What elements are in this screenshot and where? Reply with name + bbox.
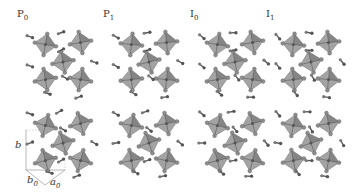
structure-i0-bottom-view [194,103,274,183]
panel-label-i0: I0 [190,9,198,22]
structure-p1-top-view [108,22,188,102]
panel-label-p1: P1 [103,9,114,22]
structure-i0-top-view [194,22,274,102]
structure-p0-bottom-view [22,103,102,183]
structure-p0-top-view [22,22,102,102]
structure-i1-top-view [270,22,350,102]
panel-label-i1: I1 [266,9,274,22]
structure-i1-bottom-view [270,103,350,183]
structure-p1-bottom-view [108,103,188,183]
panel-label-p0: P0 [17,9,28,22]
